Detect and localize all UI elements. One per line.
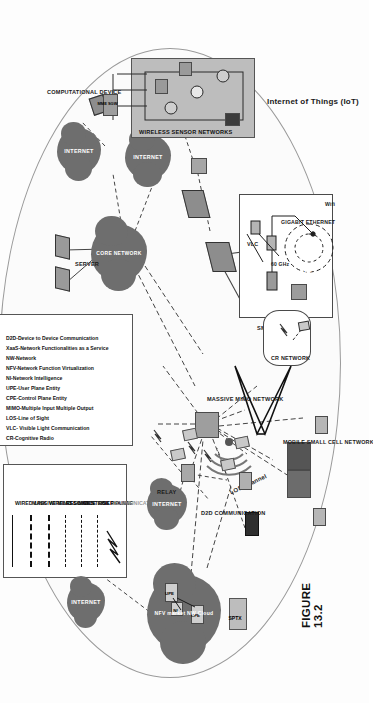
cloud-label-internet-2: INTERNET xyxy=(152,501,181,507)
cloud-label-internet-3: INTERNET xyxy=(64,148,93,154)
cr-network-internal xyxy=(0,26,343,686)
figure-caption: FIGURE 13.2 xyxy=(300,559,324,628)
cloud-label-internet-5: INTERNET xyxy=(282,270,311,276)
cloud-label-internet-4: INTERNET xyxy=(133,154,162,160)
cloud-label-core-network: CORE NETWORK xyxy=(96,250,141,256)
rotated-diagram-stage: WIRED LINK MASSIVE MIMO LINKS WIRELESS L… xyxy=(0,26,343,686)
cloud-label-nfv: NFV market NW Cloud xyxy=(154,610,213,616)
cloud-label-internet-1: INTERNET xyxy=(71,599,100,605)
